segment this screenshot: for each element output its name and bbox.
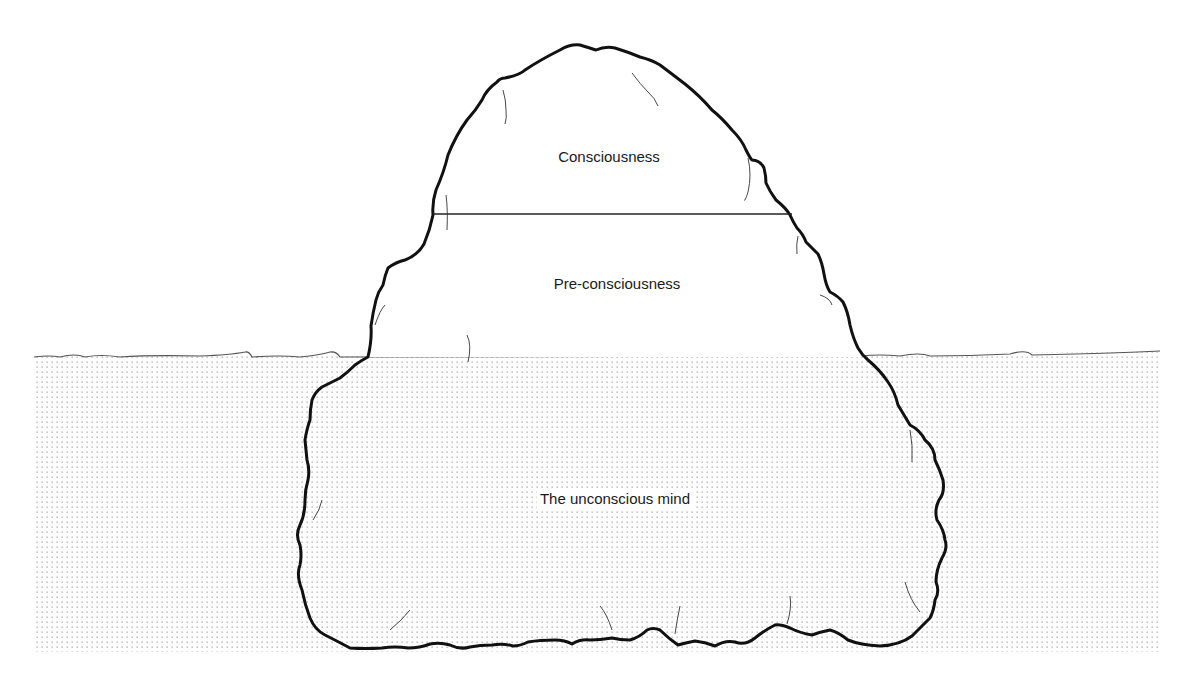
label-pre-consciousness: Pre-consciousness: [554, 275, 681, 293]
iceberg-tip-fill: [368, 45, 862, 357]
label-unconscious-mind: The unconscious mind: [537, 490, 693, 508]
iceberg-diagram: [0, 0, 1180, 677]
label-consciousness: Consciousness: [558, 148, 660, 166]
